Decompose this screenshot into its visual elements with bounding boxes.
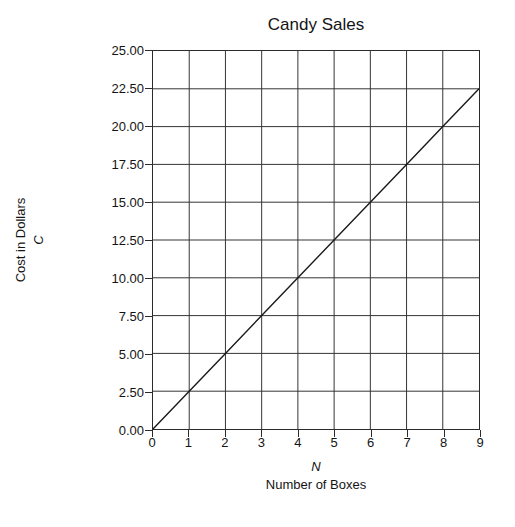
chart-figure: Candy Sales C Cost in Dollars 0.002.505.…: [0, 0, 515, 527]
y-axis-tick-mark: [145, 50, 152, 51]
y-axis-tick-label: 25.00: [80, 44, 144, 57]
y-axis-tick-mark: [145, 316, 152, 317]
y-axis-label-group: C Cost in Dollars: [0, 50, 76, 430]
y-axis-tick-label: 20.00: [80, 120, 144, 133]
x-axis-tick-label: 0: [137, 436, 167, 449]
y-axis-tick-mark: [145, 202, 152, 203]
y-axis-tick-label: 7.50: [80, 310, 144, 323]
y-axis-tick-label: 12.50: [80, 234, 144, 247]
y-axis-tick-mark: [145, 88, 152, 89]
x-axis-tick-label: 9: [465, 436, 495, 449]
y-axis-tick-mark: [145, 126, 152, 127]
plot-area: [152, 50, 480, 430]
y-axis-tick-labels: 0.002.505.007.5010.0012.5015.0017.5020.0…: [80, 50, 144, 430]
y-axis-tick-mark: [145, 240, 152, 241]
x-axis-tick-label: 1: [173, 436, 203, 449]
x-axis-tick-label: 7: [392, 436, 422, 449]
chart-title: Candy Sales: [152, 14, 480, 36]
x-axis-label-group: N Number of Boxes: [152, 458, 480, 494]
y-axis-tick-mark: [145, 392, 152, 393]
y-axis-tick-label: 10.00: [80, 272, 144, 285]
x-axis-tick-label: 5: [319, 436, 349, 449]
y-axis-tick-mark: [145, 354, 152, 355]
x-axis-tick-labels: 0123456789: [152, 436, 480, 454]
x-axis-tick-label: 6: [356, 436, 386, 449]
y-axis-tick-marks: [145, 50, 152, 430]
x-axis-symbol-label: N: [152, 458, 480, 475]
data-series-line: [153, 51, 479, 429]
x-axis-title: Number of Boxes: [152, 475, 480, 494]
y-axis-tick-mark: [145, 278, 152, 279]
y-axis-tick-label: 15.00: [80, 196, 144, 209]
y-axis-tick-label: 5.00: [80, 348, 144, 361]
y-axis-tick-label: 17.50: [80, 158, 144, 171]
y-axis-tick-label: 0.00: [80, 424, 144, 437]
y-axis-tick-mark: [145, 164, 152, 165]
y-axis-tick-mark: [145, 430, 152, 431]
y-axis-tick-label: 2.50: [80, 386, 144, 399]
y-axis-tick-label: 22.50: [80, 82, 144, 95]
y-axis-symbol-label: C: [31, 235, 46, 244]
x-axis-tick-label: 4: [283, 436, 313, 449]
x-axis-tick-label: 3: [246, 436, 276, 449]
x-axis-tick-label: 8: [429, 436, 459, 449]
x-axis-tick-label: 2: [210, 436, 240, 449]
y-axis-title: Cost in Dollars: [13, 198, 28, 283]
plot-inner: [153, 51, 479, 429]
